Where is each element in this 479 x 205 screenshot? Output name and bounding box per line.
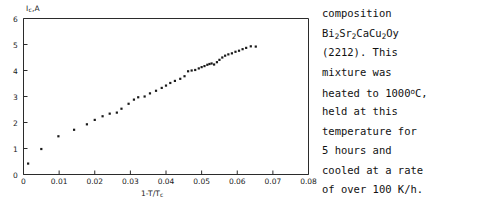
data-point — [174, 80, 176, 82]
caption-line-5-temperature: heated to 1000oC, — [322, 82, 479, 102]
data-point — [250, 45, 252, 47]
data-point — [183, 75, 185, 77]
caption-line-5-post: C, — [415, 87, 428, 99]
data-point — [57, 135, 59, 137]
y-tick-label: 3 — [13, 92, 18, 101]
data-point — [101, 115, 103, 117]
caption-line-8: 5 hours and — [322, 141, 479, 161]
formula-oy: Oy — [386, 27, 399, 39]
data-point-series — [27, 45, 257, 164]
plot-tick-marks — [24, 19, 309, 175]
data-point — [213, 63, 215, 65]
data-point — [73, 129, 75, 131]
y-tick-label: 0 — [13, 170, 18, 179]
data-point — [169, 82, 171, 84]
caption-line-2-formula: Bi2Sr2CaCu2Oy — [322, 24, 479, 44]
x-tick-label: 0.05 — [193, 177, 210, 186]
data-point — [224, 55, 226, 57]
x-tick-label: 0.03 — [122, 177, 139, 186]
formula-sr: Sr — [339, 27, 352, 39]
data-point — [109, 113, 111, 115]
data-point — [120, 108, 122, 110]
plot-frame — [24, 19, 309, 175]
caption-line-7: temperature for — [322, 122, 479, 142]
x-tick-label: 0.01 — [51, 177, 68, 186]
data-point — [155, 90, 157, 92]
data-point — [241, 48, 243, 50]
x-tick-label: 0.06 — [229, 177, 246, 186]
data-point — [40, 148, 42, 150]
y-tick-label: 4 — [13, 66, 18, 75]
y-tick-label: 6 — [13, 14, 18, 23]
formula-cacu: CaCu — [356, 27, 381, 39]
x-axis-label-subscript: c — [160, 191, 163, 198]
data-point — [137, 96, 139, 98]
data-point — [133, 99, 135, 101]
caption-line-9: cooled at a rate — [322, 161, 479, 181]
data-point — [234, 51, 236, 53]
caption-line-4: mixture was — [322, 63, 479, 83]
y-axis-label-tail: ,A — [32, 4, 40, 13]
data-point — [194, 69, 196, 71]
data-point — [86, 123, 88, 125]
caption-line-10: of over 100 K/h. — [322, 180, 479, 200]
data-point — [227, 53, 229, 55]
data-point — [187, 70, 189, 72]
data-point — [165, 84, 167, 86]
data-point — [255, 45, 257, 47]
data-point — [198, 67, 200, 69]
scatter-plot-canvas — [0, 0, 320, 205]
x-axis-label: 1-T/Tc — [141, 189, 163, 198]
data-point — [127, 103, 129, 105]
data-point — [191, 69, 193, 71]
y-tick-label: 5 — [13, 40, 18, 49]
caption-line-6: held at this — [322, 102, 479, 122]
x-tick-label: 0.08 — [300, 177, 317, 186]
caption-line-5-pre: heated to 1000 — [322, 87, 411, 99]
data-point — [94, 119, 96, 121]
x-tick-label: 0.07 — [265, 177, 282, 186]
data-point — [208, 63, 210, 65]
data-point — [149, 92, 151, 94]
data-point — [216, 61, 218, 63]
data-point — [203, 65, 205, 67]
data-point — [144, 95, 146, 97]
figure-page: Ic,A 1-T/Tc 00.010.020.030.040.050.060.0… — [0, 0, 479, 205]
data-point — [218, 59, 220, 61]
chart-figure: Ic,A 1-T/Tc 00.010.020.030.040.050.060.0… — [0, 0, 320, 205]
caption-text-block: composition Bi2Sr2CaCu2Oy (2212). This m… — [322, 4, 479, 200]
data-point — [206, 64, 208, 66]
y-tick-label: 2 — [13, 118, 18, 127]
data-point — [231, 52, 233, 54]
data-point — [116, 112, 118, 114]
formula-bi: Bi — [322, 27, 335, 39]
data-point — [161, 87, 163, 89]
x-tick-label: 0.02 — [86, 177, 103, 186]
data-point — [179, 78, 181, 80]
plot-axes — [24, 19, 309, 175]
data-point — [245, 47, 247, 49]
data-point — [238, 50, 240, 52]
x-tick-label: 0 — [21, 177, 26, 186]
data-point — [27, 162, 29, 164]
x-axis-label-main: 1-T/T — [141, 189, 160, 198]
data-point — [221, 56, 223, 58]
caption-line-3: (2212). This — [322, 43, 479, 63]
data-point — [211, 62, 213, 64]
x-tick-label: 0.04 — [158, 177, 175, 186]
caption-line-1: composition — [322, 4, 479, 24]
y-axis-label: Ic,A — [26, 4, 40, 13]
y-tick-label: 1 — [13, 144, 18, 153]
data-point — [201, 66, 203, 68]
